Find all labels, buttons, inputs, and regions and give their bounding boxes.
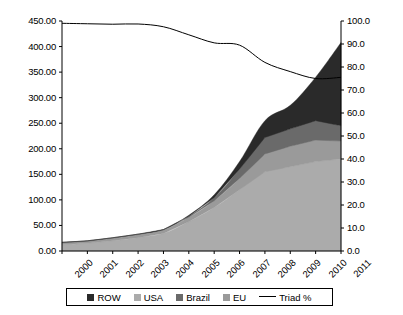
line-series-triad-percent xyxy=(62,23,341,78)
legend-swatch-icon xyxy=(134,294,141,301)
legend-item-label: USA xyxy=(144,292,164,303)
legend-item-label: ROW xyxy=(97,292,120,303)
legend-item-label: EU xyxy=(233,292,246,303)
legend-item-label: Brazil xyxy=(186,292,210,303)
legend-item-eu[interactable]: EU xyxy=(223,292,246,303)
chart-legend: ROWUSABrazilEUTriad % xyxy=(66,288,333,306)
chart-container: 0.0050.00100.00150.00200.00250.00300.003… xyxy=(0,0,403,315)
legend-item-label: Triad % xyxy=(279,292,311,303)
legend-line-icon xyxy=(259,296,276,297)
area-series-usa xyxy=(62,159,341,251)
legend-item-brazil[interactable]: Brazil xyxy=(176,292,210,303)
legend-item-usa[interactable]: USA xyxy=(134,292,164,303)
legend-swatch-icon xyxy=(176,294,183,301)
legend-item-row[interactable]: ROW xyxy=(87,292,120,303)
legend-swatch-icon xyxy=(87,294,94,301)
legend-item-triad[interactable]: Triad % xyxy=(259,292,311,303)
legend-swatch-icon xyxy=(223,294,230,301)
plot-area xyxy=(0,0,403,315)
